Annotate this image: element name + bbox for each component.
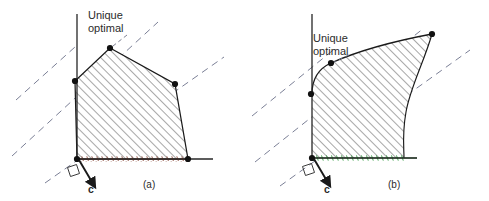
- gradient-vector-label: c: [88, 183, 94, 195]
- right-angle-icon: [303, 164, 315, 176]
- feasible-region-a: [75, 48, 188, 159]
- objective-line: [16, 47, 75, 100]
- vertex-dot-optimal: [107, 45, 113, 51]
- unique-optimal-label-line2: optimal: [88, 22, 123, 34]
- unique-optimal-label-line1: Unique: [88, 9, 123, 21]
- vertex-dot: [308, 91, 314, 97]
- panel-a-canvas: Unique optimal c (a): [0, 0, 245, 201]
- vertex-dot-optimal: [328, 60, 334, 66]
- vertex-dot: [429, 31, 435, 37]
- vertex-dot: [185, 156, 191, 162]
- panel-b: Unique optimal c (b): [245, 0, 489, 201]
- gradient-vector-label: c: [324, 183, 330, 195]
- panel-b-canvas: Unique optimal c (b): [245, 0, 489, 201]
- figure-container: Unique optimal c (a): [0, 0, 489, 201]
- unique-optimal-label-line1: Unique: [313, 32, 348, 44]
- vertex-dot: [72, 78, 78, 84]
- panel-caption-b: (b): [388, 179, 400, 190]
- panel-caption-a: (a): [143, 179, 155, 190]
- annotation-leader-a: [113, 35, 127, 46]
- vertex-dot: [172, 81, 178, 87]
- gradient-arrow-icon: [314, 159, 327, 181]
- panel-a: Unique optimal c (a): [0, 0, 245, 201]
- gradient-indicator-a: [68, 160, 93, 182]
- unique-optimal-label-line2: optimal: [313, 45, 348, 57]
- gradient-arrow-icon: [79, 160, 92, 182]
- gradient-indicator-b: [303, 159, 328, 181]
